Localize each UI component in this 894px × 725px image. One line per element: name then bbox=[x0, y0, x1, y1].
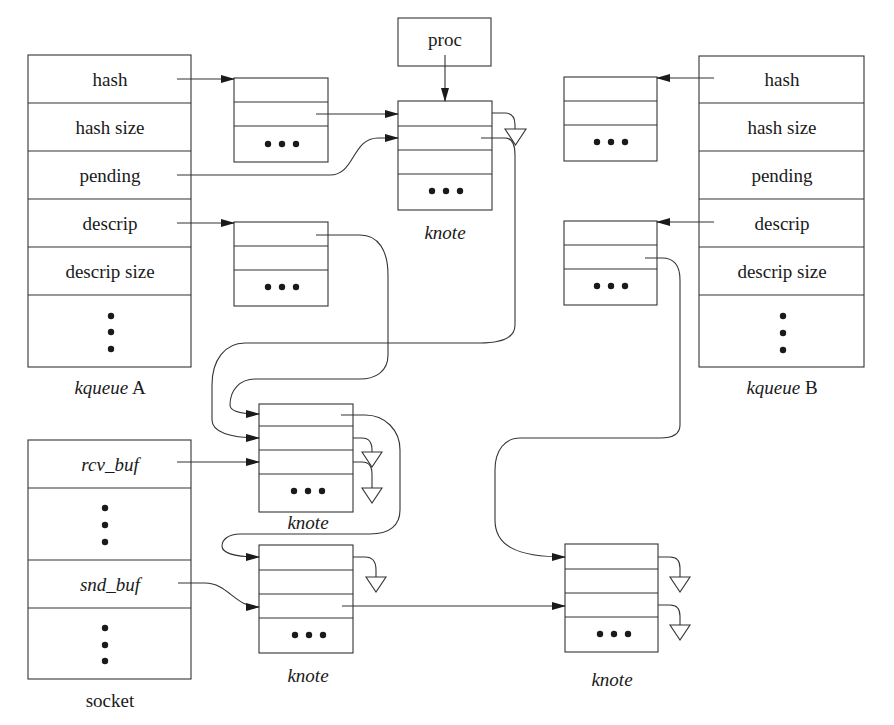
kqueue-b-struct: hash hash size pending descrip descrip s… bbox=[699, 56, 864, 398]
kqueue-b-caption: kqueue B bbox=[746, 377, 817, 398]
knote-middle: knote bbox=[259, 404, 353, 533]
kqueue-b-field-descrip: descrip bbox=[755, 213, 810, 234]
link-line bbox=[658, 605, 680, 625]
horizontal-ellipsis-icon bbox=[594, 283, 628, 289]
knote-bottom-right: knote bbox=[565, 544, 658, 690]
socket-caption: socket bbox=[86, 690, 135, 711]
kqueue-a-field-hash-size: hash size bbox=[75, 117, 144, 138]
kqueue-diagram: hash hash size pending descrip descrip s… bbox=[0, 0, 894, 725]
link-line bbox=[658, 557, 680, 577]
socket-field-rcv-buf: rcv_buf bbox=[81, 454, 141, 475]
kqueue-a-field-hash: hash bbox=[93, 69, 128, 90]
kqueue-b-descrip-table bbox=[564, 221, 657, 305]
null-triangle-icon bbox=[362, 452, 382, 467]
knote-bottom-right-caption: knote bbox=[591, 669, 632, 690]
link-line bbox=[353, 462, 372, 488]
kqueue-b-field-pending: pending bbox=[751, 165, 813, 186]
link-line bbox=[353, 438, 372, 452]
kqueue-a-struct: hash hash size pending descrip descrip s… bbox=[28, 55, 191, 398]
knote-bottom-left-caption: knote bbox=[287, 665, 328, 686]
horizontal-ellipsis-icon bbox=[594, 139, 628, 145]
null-triangle-icon bbox=[670, 625, 690, 640]
kqueue-a-field-descrip-size: descrip size bbox=[65, 261, 154, 282]
kqueue-b-field-hash: hash bbox=[765, 69, 800, 90]
kqueue-a-field-pending: pending bbox=[79, 165, 141, 186]
kqueue-b-field-descrip-size: descrip size bbox=[737, 261, 826, 282]
null-triangle-icon bbox=[366, 577, 386, 592]
horizontal-ellipsis-icon bbox=[265, 141, 299, 147]
link-line bbox=[353, 557, 376, 577]
kqueue-a-caption: kqueue A bbox=[74, 377, 146, 398]
horizontal-ellipsis-icon bbox=[429, 188, 463, 194]
kqueue-a-descrip-table bbox=[234, 222, 328, 306]
socket-struct: rcv_buf snd_buf socket bbox=[28, 440, 191, 711]
horizontal-ellipsis-icon bbox=[265, 284, 299, 290]
link-line bbox=[492, 113, 515, 130]
kqueue-b-hash-table bbox=[564, 77, 657, 161]
horizontal-ellipsis-icon bbox=[597, 631, 631, 637]
kqueue-a-field-descrip: descrip bbox=[83, 213, 138, 234]
socket-field-snd-buf: snd_buf bbox=[80, 574, 143, 595]
horizontal-ellipsis-icon bbox=[292, 632, 326, 638]
knote-top-caption: knote bbox=[424, 222, 465, 243]
knote-middle-caption: knote bbox=[287, 512, 328, 533]
proc-label: proc bbox=[428, 29, 462, 50]
kqueue-a-hash-table bbox=[234, 78, 328, 162]
knote-bottom-left: knote bbox=[259, 545, 353, 686]
null-triangle-icon bbox=[362, 488, 382, 503]
kqueue-b-field-hash-size: hash size bbox=[747, 117, 816, 138]
knote-top: knote bbox=[398, 101, 492, 243]
null-triangle-icon bbox=[670, 577, 690, 592]
horizontal-ellipsis-icon bbox=[291, 488, 325, 494]
null-triangle-icon bbox=[505, 129, 526, 145]
